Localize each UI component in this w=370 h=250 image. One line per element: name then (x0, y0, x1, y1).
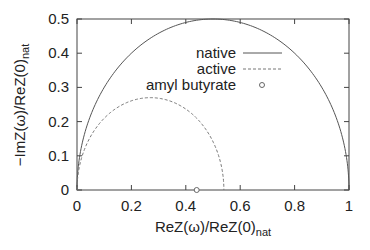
legend-item-native: native (196, 44, 282, 61)
x-tick-label: 0.2 (121, 197, 142, 214)
y-tick-label: 0 (61, 181, 69, 198)
x-axis-label: ReZ(ω)/ReZ(0)nat (155, 218, 271, 238)
legend-label-native: native (196, 44, 236, 61)
series-amyl-butyrate-point (194, 188, 199, 193)
legend-marker-circle-icon (260, 83, 265, 88)
x-tick-label: 0.6 (230, 197, 251, 214)
series-active-curve (77, 98, 224, 190)
legend-item-active: active (197, 60, 282, 77)
x-tick-label: 0.4 (175, 197, 196, 214)
y-tick-label: 0.1 (48, 147, 69, 164)
legend-item-amyl-butyrate: amyl butyrate (146, 76, 265, 93)
y-tick-label: 0.3 (48, 78, 69, 95)
legend-label-amyl-butyrate: amyl butyrate (146, 76, 236, 93)
y-tick-label: 0.4 (48, 44, 69, 61)
y-axis-label: −ImZ(ω)/ReZ(0)nat (11, 44, 31, 166)
x-tick-label: 0.8 (284, 197, 305, 214)
nyquist-chart: 00.20.40.60.8100.10.20.30.40.5 ReZ(ω)/Re… (0, 0, 370, 250)
tick-labels: 00.20.40.60.8100.10.20.30.40.5 (48, 10, 353, 214)
legend-label-active: active (197, 60, 236, 77)
x-tick-label: 0 (73, 197, 81, 214)
y-tick-label: 0.5 (48, 10, 69, 27)
y-tick-label: 0.2 (48, 113, 69, 130)
x-tick-label: 1 (345, 197, 353, 214)
legend: native active amyl butyrate (146, 44, 282, 93)
